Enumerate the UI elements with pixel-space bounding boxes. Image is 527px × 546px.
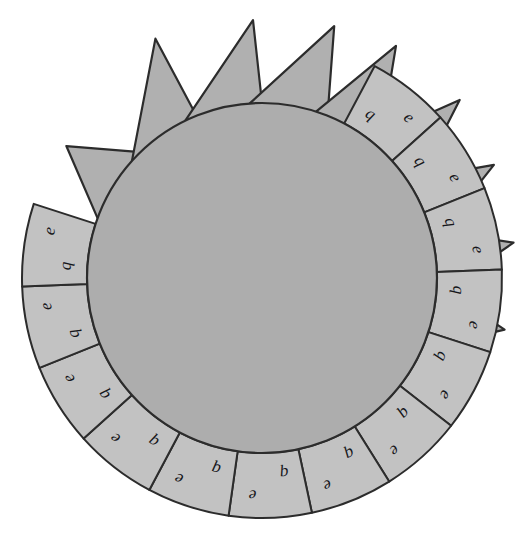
ring-segment-8 <box>229 449 312 518</box>
central-disc <box>87 103 437 453</box>
sunburst-wheel-diagram: qeqeqeqeqeqeqeqeqeqeqeqeqe <box>0 0 527 546</box>
segment-4-letter-inner: q <box>449 285 469 295</box>
figure-canvas: qeqeqeqeqeqeqeqeqeqeqeqeqe <box>0 0 527 546</box>
segment-13-letter-inner: q <box>56 261 76 271</box>
segment-8-letter-outer: e <box>248 486 257 505</box>
